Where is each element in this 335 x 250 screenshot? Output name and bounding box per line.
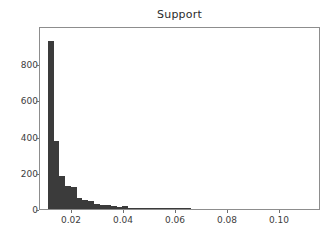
x-axis-tick-label: 0.08 [217, 216, 237, 225]
histogram-bars [40, 28, 319, 209]
x-axis-tick-label: 0.04 [113, 216, 133, 225]
histogram-bar [185, 208, 191, 209]
histogram-figure: Support 0200400600800 0.020.040.060.080.… [0, 0, 335, 250]
x-axis-tick-mark [227, 210, 228, 213]
plot-area [39, 27, 320, 210]
x-axis-tick-mark [71, 210, 72, 213]
x-axis-tick-mark [123, 210, 124, 213]
x-axis-tick-mark [279, 210, 280, 213]
x-axis-tick-mark [175, 210, 176, 213]
y-axis-tick-mark [36, 210, 39, 211]
page-title: Support [39, 8, 320, 21]
x-axis-tick-label: 0.10 [269, 216, 289, 225]
x-axis-tick-label: 0.02 [61, 216, 81, 225]
x-axis-tick-label: 0.06 [165, 216, 185, 225]
